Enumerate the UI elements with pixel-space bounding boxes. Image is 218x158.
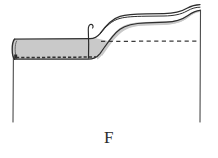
right-boundary-line [200, 10, 201, 122]
figure-container: F [0, 0, 218, 158]
figure-caption-label: F [0, 128, 218, 148]
band-fill-left [13, 39, 108, 59]
